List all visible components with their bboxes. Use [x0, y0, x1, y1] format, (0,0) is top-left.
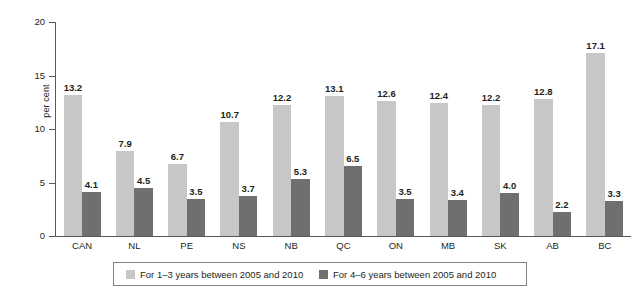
bar-group: 6.73.5	[168, 22, 205, 236]
x-axis-line	[55, 236, 631, 237]
bar-group: 12.82.2	[534, 22, 571, 236]
y-axis-tick	[49, 183, 55, 184]
bar: 3.4	[448, 200, 467, 236]
bar: 10.7	[220, 122, 239, 236]
y-axis-tick-label: 5	[22, 178, 45, 188]
bar-value-label: 7.9	[119, 139, 132, 149]
bar: 4.5	[134, 188, 153, 236]
bar-value-label: 12.6	[377, 89, 396, 99]
bar: 4.1	[82, 192, 101, 236]
legend-label-series-2: For 4–6 years between 2005 and 2010	[333, 269, 496, 280]
bar-value-label: 3.5	[398, 187, 411, 197]
x-axis-label: NS	[213, 240, 265, 251]
y-axis-tick	[49, 76, 55, 77]
bar: 13.2	[64, 95, 83, 236]
bar-value-label: 3.3	[608, 189, 621, 199]
x-axis-label: QC	[317, 240, 369, 251]
y-axis-tick	[49, 22, 55, 23]
bar: 3.5	[187, 199, 206, 236]
y-axis-tick-label: 20	[22, 17, 45, 27]
y-axis-tick-label: 15	[22, 71, 45, 81]
bar-chart: per cent 05101520 13.24.17.94.56.73.510.…	[0, 0, 641, 297]
chart-legend: For 1–3 years between 2005 and 2010 For …	[113, 262, 527, 286]
bar-group: 7.94.5	[116, 22, 153, 236]
bar-group: 12.63.5	[377, 22, 414, 236]
y-axis-tick-label: 0	[22, 231, 45, 241]
bar-groups: 13.24.17.94.56.73.510.73.712.25.313.16.5…	[56, 22, 631, 236]
bar-value-label: 4.1	[85, 180, 98, 190]
bar: 2.2	[553, 212, 572, 236]
legend-swatch-icon-series-1	[126, 270, 135, 279]
bar: 4.0	[500, 193, 519, 236]
y-axis-tick-label: 10	[22, 124, 45, 134]
x-axis-label: AB	[526, 240, 578, 251]
bar: 3.5	[396, 199, 415, 236]
bar-group: 10.73.7	[220, 22, 257, 236]
bar-value-label: 12.8	[534, 87, 553, 97]
bar: 12.2	[482, 105, 501, 236]
y-axis-tick	[49, 129, 55, 130]
bar-value-label: 12.2	[273, 93, 292, 103]
x-axis-label: NB	[265, 240, 317, 251]
legend-swatch-icon-series-2	[319, 270, 328, 279]
x-axis-label: PE	[161, 240, 213, 251]
bar: 6.7	[168, 164, 187, 236]
bar-value-label: 4.0	[503, 181, 516, 191]
x-axis-label: MB	[422, 240, 474, 251]
bar: 12.8	[534, 99, 553, 236]
x-axis-label: SK	[474, 240, 526, 251]
bar: 3.3	[605, 201, 624, 236]
bar: 17.1	[586, 53, 605, 236]
bar-value-label: 2.2	[555, 200, 568, 210]
bar: 13.1	[325, 96, 344, 236]
bar-value-label: 4.5	[137, 176, 150, 186]
bar: 6.5	[344, 166, 363, 236]
bar: 12.6	[377, 101, 396, 236]
bar-group: 12.43.4	[430, 22, 467, 236]
bar-value-label: 5.3	[294, 167, 307, 177]
bar-value-label: 12.2	[482, 93, 501, 103]
x-axis-label: BC	[579, 240, 631, 251]
bar-value-label: 3.4	[451, 188, 464, 198]
bar-group: 17.13.3	[586, 22, 623, 236]
bar-group: 12.25.3	[273, 22, 310, 236]
x-axis-label: ON	[370, 240, 422, 251]
x-axis-label: NL	[108, 240, 160, 251]
bar-value-label: 3.7	[242, 184, 255, 194]
bar-value-label: 6.7	[171, 152, 184, 162]
bar-value-label: 13.1	[325, 84, 344, 94]
legend-item-series-2: For 4–6 years between 2005 and 2010	[319, 269, 496, 280]
bar-value-label: 17.1	[586, 41, 605, 51]
bar-group: 13.16.5	[325, 22, 362, 236]
bar-group: 13.24.1	[64, 22, 101, 236]
bar: 3.7	[239, 196, 258, 236]
bar: 7.9	[116, 151, 135, 236]
legend-item-series-1: For 1–3 years between 2005 and 2010	[126, 269, 303, 280]
bar-value-label: 13.2	[64, 83, 83, 93]
bar: 12.2	[273, 105, 292, 236]
bar: 5.3	[291, 179, 310, 236]
bar-group: 12.24.0	[482, 22, 519, 236]
bar-value-label: 12.4	[430, 91, 449, 101]
legend-label-series-1: For 1–3 years between 2005 and 2010	[140, 269, 303, 280]
bar-value-label: 6.5	[346, 154, 359, 164]
bar-value-label: 10.7	[220, 110, 239, 120]
bar: 12.4	[430, 103, 449, 236]
x-axis-label: CAN	[56, 240, 108, 251]
bar-value-label: 3.5	[189, 187, 202, 197]
